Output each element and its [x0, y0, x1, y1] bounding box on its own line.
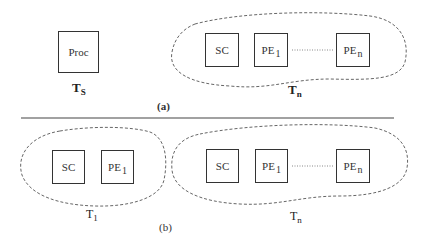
- group-label-tn-b: Tn: [290, 209, 302, 224]
- group-label-t1: T1: [86, 207, 98, 222]
- caption-b: (b): [159, 221, 172, 233]
- group-label-ts: TS: [72, 80, 86, 96]
- cluster-boundary-b-t1: [21, 127, 166, 206]
- pe1-box-bn: PE1: [255, 149, 288, 183]
- pen-box-a: PEn: [336, 33, 370, 67]
- group-label-tn-a: Tn: [288, 82, 302, 98]
- pe1-box-b1: PE1: [101, 150, 134, 184]
- pen-box-bn: PEn: [336, 149, 370, 183]
- caption-a: (a): [157, 100, 170, 112]
- proc-box: Proc: [58, 31, 99, 73]
- sc-box-a: SC: [205, 33, 239, 67]
- sc-box-b1: SC: [52, 150, 85, 184]
- proc-label: Proc: [68, 46, 88, 58]
- sc-box-bn: SC: [206, 149, 239, 183]
- pe1-box-a: PE1: [254, 33, 288, 67]
